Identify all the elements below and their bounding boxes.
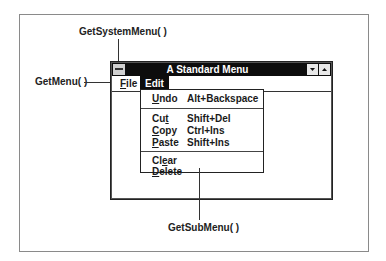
menu-file[interactable]: File [115, 76, 142, 91]
triangle-down-icon [307, 64, 318, 75]
menu-item-undo[interactable]: Undo [152, 93, 178, 105]
shortcut-cut: Shift+Del [187, 113, 231, 125]
callout-get-system-menu: GetSystemMenu( ) [79, 26, 167, 37]
callout-line-menu [84, 82, 113, 83]
menu-item-copy[interactable]: Copy [152, 125, 177, 137]
menu-item-delete[interactable]: Delete [152, 166, 182, 178]
maximize-button[interactable] [319, 64, 330, 75]
triangle-up-icon [319, 64, 330, 75]
menu-item-cut[interactable]: Cut [152, 113, 169, 125]
callout-line-system-menu [118, 39, 119, 63]
menu-separator [141, 151, 263, 152]
shortcut-copy: Ctrl+Ins [187, 125, 225, 137]
menu-separator [141, 108, 263, 109]
menu-file-rest: ile [126, 78, 137, 89]
callout-line-sub-menu [199, 168, 200, 220]
title-bar: A Standard Menu [112, 63, 331, 76]
callout-get-menu: GetMenu( ) [35, 76, 87, 87]
menu-item-paste[interactable]: Paste [152, 137, 179, 149]
callout-get-sub-menu: GetSubMenu( ) [168, 222, 239, 233]
minimize-button[interactable] [307, 64, 318, 75]
shortcut-undo: Alt+Backspace [187, 93, 258, 105]
edit-submenu: Undo Alt+Backspace Cut Shift+Del Copy Ct… [140, 89, 264, 173]
window-title: A Standard Menu [112, 64, 303, 75]
shortcut-paste: Shift+Ins [187, 137, 230, 149]
